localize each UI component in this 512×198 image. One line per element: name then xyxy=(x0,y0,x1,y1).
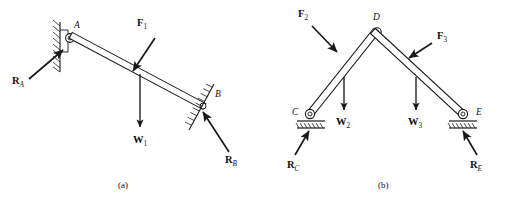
force-label-w2: W2 xyxy=(336,117,350,130)
joint-label-d: D xyxy=(373,13,380,23)
force-label-f2: F2 xyxy=(298,9,308,22)
force-label-f1-subscript: 1 xyxy=(143,23,147,31)
panel-a-geometry xyxy=(29,20,229,152)
joint-label-c: C xyxy=(292,108,298,118)
bar-cd xyxy=(307,29,379,117)
force-label-w3: W3 xyxy=(408,117,422,130)
force-label-f3: F3 xyxy=(437,31,447,44)
support-c-pin-on-ground xyxy=(296,109,325,128)
force-label-w1-letter: W xyxy=(133,134,144,145)
force-label-rb-letter: R xyxy=(225,154,233,165)
force-label-ra-subscript: A xyxy=(20,81,24,89)
bar-de xyxy=(371,29,466,118)
support-a-wall xyxy=(53,20,68,72)
joint-label-b: B xyxy=(215,90,221,100)
force-label-w2-subscript: 2 xyxy=(347,122,351,130)
force-label-w1: W1 xyxy=(133,135,147,148)
force-arrow-re xyxy=(463,131,477,155)
force-label-re-letter: R xyxy=(470,159,478,170)
panel-caption-a: (a) xyxy=(118,180,128,190)
force-label-rc-letter: R xyxy=(287,159,295,170)
force-label-rb: RB xyxy=(225,155,237,168)
force-label-f1: F1 xyxy=(137,18,147,31)
force-arrow-f3 xyxy=(409,43,432,58)
force-label-f3-subscript: 3 xyxy=(443,36,447,44)
force-label-re-subscript: E xyxy=(478,165,482,173)
force-label-ra-letter: R xyxy=(12,75,20,86)
force-label-w3-subscript: 3 xyxy=(419,122,423,130)
support-e-pin-on-ground xyxy=(448,109,477,128)
force-label-w3-letter: W xyxy=(408,116,419,127)
bar-ab xyxy=(69,32,206,109)
force-label-rc-subscript: C xyxy=(295,165,300,173)
force-arrow-f2 xyxy=(312,26,337,52)
panel-b-geometry xyxy=(295,26,477,155)
force-label-rc: RC xyxy=(287,160,299,173)
force-arrow-rb xyxy=(203,112,229,152)
force-arrow-rc xyxy=(295,131,309,155)
force-label-w1-subscript: 1 xyxy=(144,140,148,148)
joint-label-e: E xyxy=(476,108,482,118)
force-label-re: RE xyxy=(470,160,482,173)
force-label-w2-letter: W xyxy=(336,116,347,127)
force-arrow-f1 xyxy=(133,38,155,71)
force-label-ra: RA xyxy=(12,76,24,89)
joint-label-a: A xyxy=(74,21,80,31)
force-label-rb-subscript: B xyxy=(233,160,237,168)
panel-caption-b: (b) xyxy=(378,180,389,190)
force-label-f2-subscript: 2 xyxy=(304,14,308,22)
force-arrow-ra xyxy=(29,50,63,79)
free-body-diagram-figure: A B F1 W1 RA RB D C E F2 F3 W2 W3 RC RE … xyxy=(0,0,512,198)
